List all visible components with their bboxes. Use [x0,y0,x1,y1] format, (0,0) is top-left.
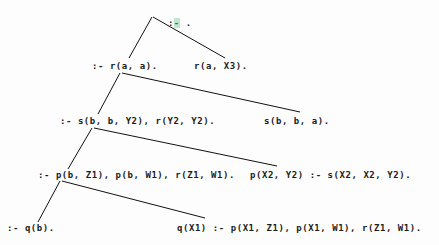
tree-node-root[interactable]: :- . [144,7,192,40]
tree-edge [122,73,300,112]
tree-edge [62,181,205,218]
tree-node-goal-r-a-a[interactable]: :- r(a, a). [92,61,158,72]
tree-node-clause-p-x2-y2[interactable]: p(X2, Y2) :- s(X2, X2, Y2). [250,170,411,181]
node-text-suffix: . [180,18,192,28]
tree-node-clause-s-b-b-a[interactable]: s(b, b, a). [264,116,330,127]
tree-node-goal-s-b-b-y2[interactable]: :- s(b, b, Y2), r(Y2, Y2). [60,116,215,127]
tree-edge [94,128,277,166]
tree-edge [68,128,92,169]
tree-edge [38,181,60,222]
tree-edge [98,73,120,114]
tree-node-goal-p-b-z1[interactable]: :- p(b, Z1), p(b, W1), r(Z1, W1). [38,170,235,181]
node-text-prefix: : [168,18,174,28]
sld-tree-canvas: :- . :- r(a, a). r(a, X3). :- s(b, b, Y2… [0,0,439,245]
tree-node-clause-q-x1[interactable]: q(X1) :- p(X1, Z1), p(X1, W1), r(Z1, W1)… [177,223,422,234]
tree-node-goal-q-b[interactable]: :- q(b). [7,223,55,234]
tree-node-clause-r-a-x3[interactable]: r(a, X3). [194,61,248,72]
